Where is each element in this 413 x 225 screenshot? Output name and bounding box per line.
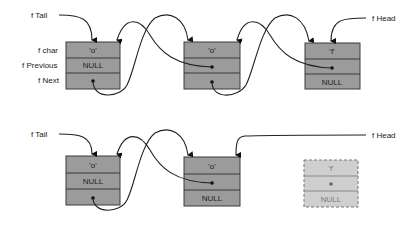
head-arrow [331, 18, 366, 41]
bottom-node-2: 'o' NULL [184, 157, 240, 206]
node-char: 'f' [329, 47, 335, 56]
node-char: 'o' [89, 46, 97, 55]
linked-list-diagram: f Tail f char f Previous f Next f Head '… [0, 0, 413, 225]
removed-node: 'f' NULL [304, 160, 358, 207]
tail-label-bottom: f Tail [31, 130, 48, 139]
node-char: 'f' [328, 164, 334, 173]
field-label-previous: f Previous [22, 61, 58, 70]
node-previous: NULL [83, 177, 104, 186]
head-label-bottom: f Head [372, 131, 396, 140]
tail-label: f Tail [31, 11, 48, 20]
top-node-2: 'o' [184, 42, 240, 89]
tail-arrow [59, 15, 92, 40]
head-arrow-bottom [236, 135, 366, 155]
node-next: NULL [321, 195, 342, 204]
field-label-next: f Next [38, 76, 60, 85]
tail-arrow-bottom [59, 134, 92, 154]
node-previous: NULL [83, 61, 104, 70]
bottom-node-1: 'o' NULL [66, 156, 120, 205]
node-char: 'o' [89, 161, 97, 170]
node-next: NULL [202, 194, 223, 203]
head-label: f Head [372, 14, 396, 23]
field-label-char: f char [38, 46, 58, 55]
node-char: 'o' [208, 46, 216, 55]
previous-pointer-dot [329, 182, 333, 186]
node-next: NULL [322, 78, 343, 87]
node-char: 'o' [208, 162, 216, 171]
